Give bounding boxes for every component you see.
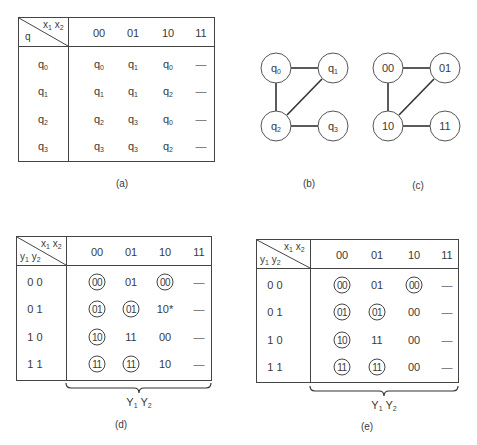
caption-c: (c) xyxy=(412,180,424,191)
column-header: 01 xyxy=(371,249,383,261)
stable-circle: 11 xyxy=(89,356,106,373)
node-label: 01 xyxy=(439,62,451,74)
brace-e xyxy=(310,386,458,396)
state-column-divider xyxy=(310,240,311,382)
state-label: 1 1 xyxy=(267,361,282,373)
next-state-cell: 00 xyxy=(408,334,420,346)
stable-circle: 00 xyxy=(157,274,174,291)
stable-state-cell: 00 xyxy=(334,277,351,294)
stable-circle: 01 xyxy=(123,301,140,318)
next-state-cell: — xyxy=(442,361,453,373)
state-label: 1 0 xyxy=(267,334,282,346)
stable-state-cell: 11 xyxy=(369,359,386,376)
stable-state-cell: 01 xyxy=(89,301,106,318)
node-label: q0 xyxy=(271,62,281,75)
next-state-cell: — xyxy=(194,331,205,343)
next-state-cell: 00 xyxy=(408,306,420,318)
next-state-cell: 01 xyxy=(371,279,383,291)
state-variables-label: y1 y2 xyxy=(20,251,41,263)
state-label: 0 1 xyxy=(267,306,282,318)
next-state-cell: — xyxy=(194,276,205,288)
caption-d: (d) xyxy=(115,419,127,430)
state-column-divider xyxy=(66,237,67,380)
stable-state-cell: 10 xyxy=(334,332,351,349)
stable-state-cell: 01 xyxy=(123,301,140,318)
node-label: q2 xyxy=(271,120,281,133)
flow-table-d: x1 x2 y1 y2 00 01 10 11 0 0000100—0 1010… xyxy=(16,236,212,381)
stable-state-cell: 00 xyxy=(157,274,174,291)
column-header: 10 xyxy=(408,249,420,261)
state-label: 0 1 xyxy=(27,303,42,315)
next-state-label-e: Y1 Y2 xyxy=(371,399,396,412)
next-state-cell: — xyxy=(194,303,205,315)
stable-circle: 10 xyxy=(334,332,351,349)
next-state-cell: 10 xyxy=(159,358,171,370)
stable-state-cell: 10 xyxy=(89,329,106,346)
next-state-label-d: Y1 Y2 xyxy=(126,396,151,409)
column-header: 01 xyxy=(125,246,137,258)
column-header: 00 xyxy=(91,246,103,258)
stable-circle: 11 xyxy=(123,356,140,373)
stable-circle: 00 xyxy=(89,274,106,291)
stable-circle: 11 xyxy=(369,359,386,376)
column-header: 00 xyxy=(336,249,348,261)
next-state-cell: — xyxy=(194,358,205,370)
next-state-cell: 11 xyxy=(371,334,382,346)
next-state-cell: 00 xyxy=(159,331,171,343)
stable-state-cell: 00 xyxy=(89,274,106,291)
node-label: q3 xyxy=(328,120,338,133)
stable-circle: 11 xyxy=(334,359,351,376)
node-label: 10 xyxy=(382,120,394,132)
state-label: 0 0 xyxy=(27,276,42,288)
node-label: q1 xyxy=(328,62,338,75)
input-variables-label: x1 x2 xyxy=(41,238,62,250)
stable-circle: 01 xyxy=(369,304,386,321)
next-state-cell: — xyxy=(442,306,453,318)
stable-state-cell: 01 xyxy=(334,304,351,321)
next-state-cell: 10* xyxy=(157,303,174,315)
flow-table-e: x1 x2 y1 y2 00 01 10 11 0 0000100—0 1010… xyxy=(256,239,459,383)
stable-state-cell: 11 xyxy=(334,359,351,376)
stable-state-cell: 11 xyxy=(123,356,140,373)
state-label: 1 1 xyxy=(27,358,42,370)
next-state-cell: — xyxy=(442,279,453,291)
caption-e: (e) xyxy=(361,421,373,432)
next-state-cell: 00 xyxy=(408,361,420,373)
column-header: 11 xyxy=(441,249,452,261)
next-state-cell: 11 xyxy=(125,331,136,343)
input-variables-label: x1 x2 xyxy=(284,241,305,253)
node-label: 11 xyxy=(439,120,450,132)
stable-state-cell: 11 xyxy=(89,356,106,373)
corner-cell: x1 x2 y1 y2 xyxy=(257,240,310,268)
state-label: 1 0 xyxy=(27,331,42,343)
stable-circle: 10 xyxy=(89,329,106,346)
stable-state-cell: 01 xyxy=(369,304,386,321)
stable-state-cell: 00 xyxy=(406,277,423,294)
column-header: 11 xyxy=(193,246,204,258)
next-state-cell: — xyxy=(442,334,453,346)
stable-circle: 00 xyxy=(406,277,423,294)
column-header: 10 xyxy=(159,246,171,258)
corner-cell: x1 x2 y1 y2 xyxy=(17,237,66,265)
stable-circle: 01 xyxy=(89,301,106,318)
next-state-cell: 01 xyxy=(125,276,137,288)
caption-b: (b) xyxy=(303,178,315,189)
state-variables-label: y1 y2 xyxy=(260,254,281,266)
state-adjacency-graphs xyxy=(0,0,477,200)
node-label: 00 xyxy=(382,62,394,74)
stable-circle: 00 xyxy=(334,277,351,294)
stable-circle: 01 xyxy=(334,304,351,321)
state-label: 0 0 xyxy=(267,279,282,291)
